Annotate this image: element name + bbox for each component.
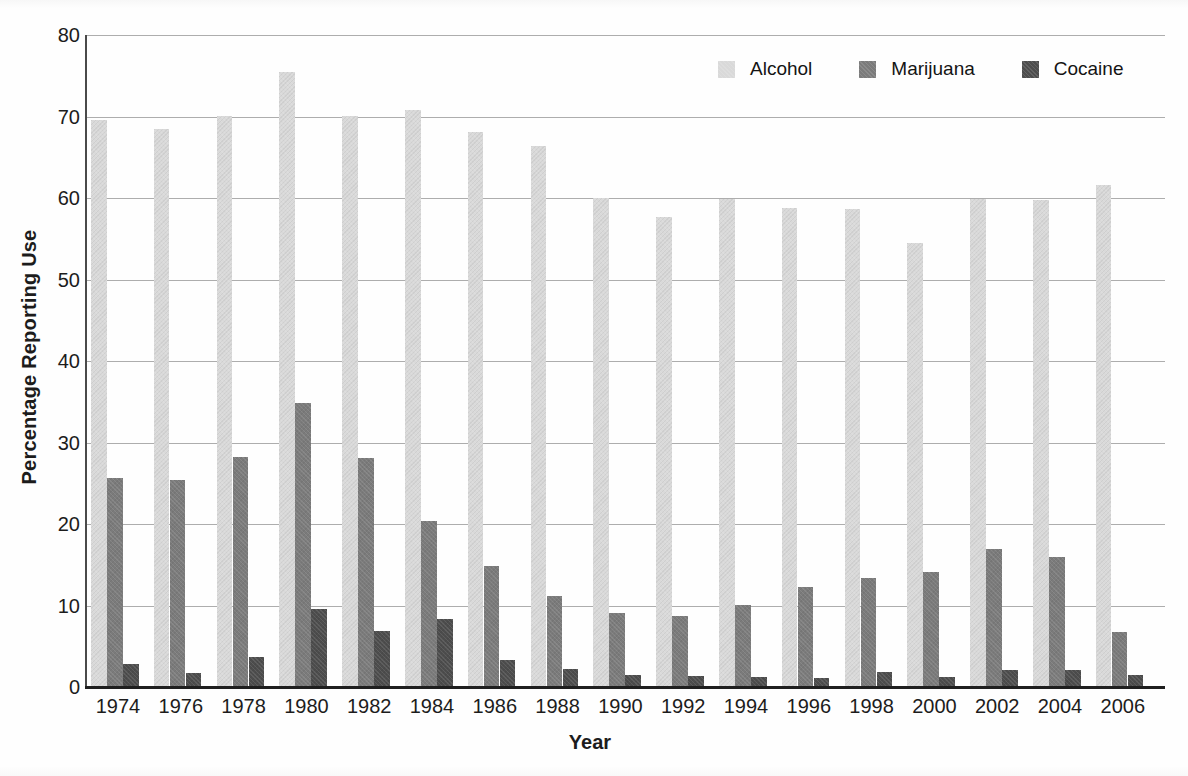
x-tick-label-1982: 1982 — [347, 695, 392, 718]
legend: Alcohol Marijuana Cocaine — [718, 58, 1123, 80]
bar-marijuana-2002 — [986, 549, 1002, 686]
gridline-10 — [87, 606, 1165, 607]
y-tick-label-40: 40 — [10, 351, 80, 371]
bar-cocaine-1988 — [563, 669, 579, 686]
bar-alcohol-1998 — [845, 209, 861, 686]
x-tick-label-2004: 2004 — [1038, 695, 1083, 718]
bar-cocaine-1992 — [688, 676, 704, 686]
plot-area: 1974197619781980198219841986198819901992… — [85, 35, 1165, 687]
x-tick-label-1984: 1984 — [410, 695, 455, 718]
bar-alcohol-1974 — [91, 120, 107, 686]
y-tick-label-70: 70 — [10, 107, 80, 127]
legend-label-marijuana: Marijuana — [891, 58, 974, 80]
gridline-60 — [87, 198, 1165, 199]
alcohol-swatch-icon — [718, 61, 735, 78]
x-tick-label-1974: 1974 — [96, 695, 141, 718]
bar-marijuana-1984 — [421, 521, 437, 686]
bar-alcohol-1976 — [154, 129, 170, 686]
bar-alcohol-1980 — [279, 72, 295, 686]
bar-marijuana-1980 — [295, 403, 311, 686]
x-tick-label-1992: 1992 — [661, 695, 706, 718]
bar-alcohol-1992 — [656, 217, 672, 686]
bar-alcohol-1984 — [405, 110, 421, 686]
bar-alcohol-1988 — [531, 146, 547, 686]
bar-cocaine-1976 — [186, 673, 202, 686]
bar-cocaine-1980 — [311, 609, 327, 686]
y-tick-label-10: 10 — [10, 596, 80, 616]
bar-cocaine-2006 — [1128, 675, 1144, 686]
gridline-70 — [87, 117, 1165, 118]
bar-alcohol-2002 — [970, 199, 986, 686]
bar-alcohol-1994 — [719, 199, 735, 686]
bar-marijuana-1988 — [547, 596, 563, 686]
bar-cocaine-1982 — [374, 631, 390, 686]
bar-alcohol-2006 — [1096, 185, 1112, 686]
legend-label-cocaine: Cocaine — [1054, 58, 1124, 80]
bar-cocaine-1974 — [123, 664, 139, 686]
bar-alcohol-1990 — [593, 198, 609, 686]
bar-marijuana-1998 — [861, 578, 877, 686]
bar-alcohol-1996 — [782, 208, 798, 686]
x-tick-label-1998: 1998 — [849, 695, 894, 718]
bar-alcohol-1982 — [342, 116, 358, 687]
x-axis-title: Year — [530, 731, 650, 754]
gridline-30 — [87, 443, 1165, 444]
bar-cocaine-1984 — [437, 619, 453, 686]
bar-alcohol-2004 — [1033, 200, 1049, 686]
x-tick-label-1996: 1996 — [787, 695, 832, 718]
bar-alcohol-1986 — [468, 132, 484, 686]
x-tick-label-2006: 2006 — [1101, 695, 1146, 718]
bar-marijuana-1996 — [798, 587, 814, 686]
bar-marijuana-2004 — [1049, 557, 1065, 686]
bar-cocaine-2000 — [939, 677, 955, 686]
y-tick-label-60: 60 — [10, 188, 80, 208]
x-tick-label-1978: 1978 — [221, 695, 266, 718]
gridline-40 — [87, 361, 1165, 362]
legend-item-alcohol: Alcohol — [718, 58, 812, 80]
legend-item-cocaine: Cocaine — [1022, 58, 1124, 80]
y-tick-label-0: 0 — [10, 677, 80, 697]
marijuana-swatch-icon — [859, 61, 876, 78]
bar-cocaine-1996 — [814, 678, 830, 686]
bar-marijuana-1992 — [672, 616, 688, 686]
x-tick-label-1990: 1990 — [598, 695, 643, 718]
x-tick-label-1980: 1980 — [284, 695, 329, 718]
gridline-80 — [87, 35, 1165, 36]
y-tick-label-20: 20 — [10, 514, 80, 534]
bar-marijuana-1990 — [609, 613, 625, 686]
y-tick-label-50: 50 — [10, 270, 80, 290]
x-tick-label-1988: 1988 — [535, 695, 580, 718]
x-axis-line — [85, 686, 1165, 689]
bar-marijuana-2006 — [1112, 632, 1128, 686]
bar-cocaine-1978 — [249, 657, 265, 686]
bar-marijuana-1974 — [107, 478, 123, 686]
legend-label-alcohol: Alcohol — [750, 58, 812, 80]
y-tick-label-80: 80 — [10, 25, 80, 45]
bar-alcohol-1978 — [217, 116, 233, 687]
bar-cocaine-1990 — [625, 675, 641, 686]
x-tick-label-2000: 2000 — [912, 695, 957, 718]
bar-marijuana-1976 — [170, 480, 186, 686]
y-tick-label-30: 30 — [10, 433, 80, 453]
bar-cocaine-2004 — [1065, 670, 1081, 686]
bar-alcohol-2000 — [907, 243, 923, 686]
x-tick-label-1976: 1976 — [159, 695, 204, 718]
bar-cocaine-1998 — [877, 672, 893, 686]
bar-cocaine-2002 — [1002, 670, 1018, 686]
bar-cocaine-1986 — [500, 660, 516, 686]
bar-marijuana-1994 — [735, 605, 751, 687]
bar-marijuana-1982 — [358, 458, 374, 686]
bar-marijuana-1986 — [484, 566, 500, 686]
x-tick-label-1994: 1994 — [724, 695, 769, 718]
bar-cocaine-1994 — [751, 677, 767, 686]
bar-marijuana-1978 — [233, 457, 249, 686]
gridline-50 — [87, 280, 1165, 281]
x-tick-label-1986: 1986 — [473, 695, 518, 718]
bar-chart-figure: Percentage Reporting Use 197419761978198… — [0, 0, 1188, 776]
legend-item-marijuana: Marijuana — [859, 58, 974, 80]
bar-marijuana-2000 — [923, 572, 939, 686]
cocaine-swatch-icon — [1022, 61, 1039, 78]
x-tick-label-2002: 2002 — [975, 695, 1020, 718]
gridline-20 — [87, 524, 1165, 525]
